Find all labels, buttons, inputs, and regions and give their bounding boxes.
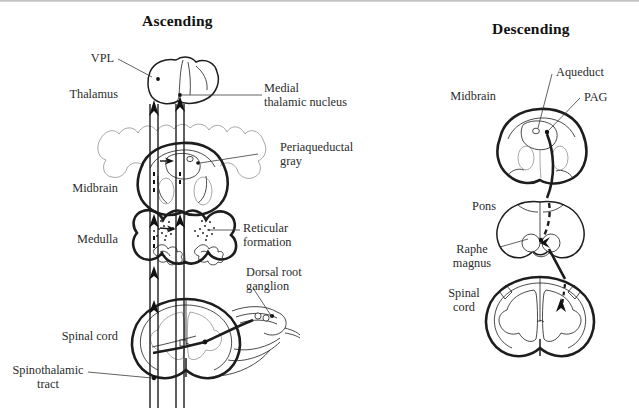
label-dorsal-root-ganglion: Dorsal root ganglion xyxy=(246,266,302,293)
midbrain-section-descending xyxy=(497,109,586,184)
thalamus-section xyxy=(148,57,218,104)
pag-dot xyxy=(545,130,549,134)
label-pons-descending: Pons xyxy=(428,200,496,214)
spinothalamic-tract-dot xyxy=(152,376,156,380)
label-periaqueductal-gray-line2: gray xyxy=(280,154,302,168)
spinal-cord-section-descending xyxy=(486,277,594,356)
reticular-formation-stipple-right xyxy=(194,220,215,241)
label-raphe-magnus-line2: magnus xyxy=(453,256,491,270)
aqueduct-opening xyxy=(533,128,540,134)
label-midbrain-descending: Midbrain xyxy=(428,90,496,104)
label-medial-thalamic-nucleus-line1: Medial xyxy=(264,81,299,95)
label-spinothalamic-tract-line1: Spinothalamic xyxy=(12,363,83,377)
gray-matter-left-descending xyxy=(499,290,538,341)
label-midbrain-ascending: Midbrain xyxy=(18,182,118,196)
label-reticular-formation-line1: Reticular xyxy=(243,221,288,235)
label-reticular-formation-line2: formation xyxy=(243,235,292,249)
label-raphe-magnus-line1: Raphe xyxy=(456,242,487,256)
label-dorsal-root-ganglion-line1: Dorsal root xyxy=(246,265,302,279)
label-pag: PAG xyxy=(584,91,607,105)
vpl-marker-dot xyxy=(156,77,160,81)
label-spinothalamic-tract-line2: tract xyxy=(37,377,59,391)
label-spinothalamic-tract: Spinothalamic tract xyxy=(8,364,88,391)
label-aqueduct: Aqueduct xyxy=(556,66,604,80)
raphe-magnus-left xyxy=(522,234,540,252)
label-vpl: VPL xyxy=(58,52,114,66)
label-spinal-cord-descending: Spinal cord xyxy=(432,287,496,314)
label-thalamus-ascending: Thalamus xyxy=(18,88,118,102)
periaqueductal-gray-dot xyxy=(196,161,200,165)
label-spinal-cord-descending-line2: cord xyxy=(453,300,475,314)
label-spinal-cord-descending-line1: Spinal xyxy=(448,286,479,300)
descending-pathway xyxy=(540,134,566,312)
midbrain-section-ascending xyxy=(138,143,228,215)
label-medial-thalamic-nucleus: Medial thalamic nucleus xyxy=(264,82,347,109)
label-dorsal-root-ganglion-line2: ganglion xyxy=(246,279,289,293)
label-periaqueductal-gray-line1: Periaqueductal xyxy=(280,140,353,154)
figure-canvas: Ascending Descending xyxy=(0,0,639,417)
label-reticular-formation: Reticular formation xyxy=(243,222,292,249)
label-periaqueductal-gray: Periaqueductal gray xyxy=(280,141,353,168)
label-medulla-ascending: Medulla xyxy=(18,233,118,247)
label-raphe-magnus: Raphe magnus xyxy=(440,243,504,270)
label-medial-thalamic-nucleus-line2: thalamic nucleus xyxy=(264,95,347,109)
gray-matter-right-descending xyxy=(543,290,582,341)
cerebrum-outline xyxy=(98,124,266,178)
label-spinal-cord-ascending: Spinal cord xyxy=(8,330,118,344)
pons-section xyxy=(497,202,584,258)
